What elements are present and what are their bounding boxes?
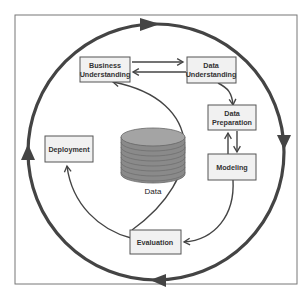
phase-label-line2: Understanding	[80, 70, 131, 79]
phase-label-line1: Business	[89, 61, 121, 70]
cycle-arrow-right-icon	[277, 135, 291, 150]
database-cylinder-icon	[121, 128, 185, 183]
cycle-arrow-bottom-icon	[150, 274, 166, 287]
phase-label: Evaluation	[137, 238, 173, 247]
cycle-arrow-top-icon	[140, 18, 160, 31]
flow-evaluation-to-deployment	[67, 166, 131, 238]
phase-label-line2: Understanding	[186, 70, 237, 79]
data-label: Data	[145, 187, 162, 196]
phase-data-preparation[interactable]: Data Preparation	[208, 105, 256, 130]
phase-evaluation[interactable]: Evaluation	[130, 230, 181, 254]
crisp-dm-diagram: Data Business Understanding Data Underst…	[0, 0, 306, 299]
phase-label: Modeling	[216, 163, 248, 172]
phase-deployment[interactable]: Deployment	[45, 136, 93, 162]
flow-modeling-to-evaluation	[184, 180, 233, 242]
phase-data-understanding[interactable]: Data Understanding	[186, 57, 237, 83]
phase-business-understanding[interactable]: Business Understanding	[80, 57, 131, 82]
phase-label-line2: Preparation	[212, 118, 252, 127]
cycle-arrow-left-icon	[21, 144, 35, 160]
phase-label-line1: Data	[224, 109, 241, 118]
phase-modeling[interactable]: Modeling	[208, 154, 256, 180]
phase-label: Deployment	[48, 145, 90, 154]
phase-label-line1: Data	[203, 61, 220, 70]
flow-data-understanding-to-preparation	[218, 83, 233, 105]
